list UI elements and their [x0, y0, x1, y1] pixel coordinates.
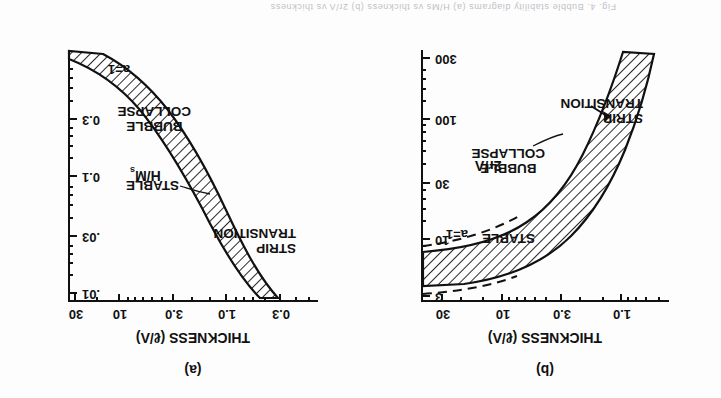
- panel-a-xtick-label-3: 10: [113, 307, 127, 322]
- panel-a-label-stable: STABLE: [126, 178, 179, 193]
- panel-a-x-axis-title: THICKNESS (ℓ/Λ): [136, 330, 250, 346]
- panel-b-xtick-label-3: 30: [436, 307, 450, 322]
- panel-b-label-stable: STABLE: [482, 231, 535, 246]
- panel-b-xtick-label-1: 3.0: [553, 307, 571, 322]
- panel-a-xtick-label-2: 3.0: [165, 307, 183, 322]
- panel-b-stability-band: [421, 50, 669, 302]
- panel-a-stability-band: [68, 50, 318, 302]
- panel-b-bubble-collapse-leader: [533, 134, 563, 146]
- scanned-figure-page: Fig. 4. Bubble stability diagrams (a) H/…: [0, 0, 721, 398]
- panel-b-xtick-label-2: 10: [496, 307, 510, 322]
- panel-b-x-axis-title: THICKNESS (ℓ/Λ): [488, 330, 602, 346]
- panel-b-xtick-label-0: 1.0: [613, 307, 631, 322]
- panel-b-label-a-equals-1: a=1: [446, 227, 468, 242]
- panel-a-label-bubble-collapse: BUBBLECOLLAPSE: [117, 104, 191, 134]
- panel-a: (a) THICKNESS (ℓ/Λ) H/Ms 0.3 1.0 3.0 10 …: [0, 0, 360, 398]
- panel-b: (b) THICKNESS (ℓ/Λ) 2r/Λ 1.0 3.0 10 30: [360, 0, 721, 398]
- panel-b-plot-area: (b) THICKNESS (ℓ/Λ) 2r/Λ 1.0 3.0 10 30: [421, 50, 669, 302]
- panel-a-label-a-equals-1: a=1: [108, 62, 130, 77]
- panel-a-xtick-label-1: 1.0: [218, 307, 236, 322]
- panel-a-label-strip-transition: STRIPTRANSITION: [214, 226, 297, 256]
- panel-b-label-strip-transition: STRIPTRANSITION: [561, 96, 644, 126]
- panel-b-label-bubble-collapse: BUBBLECOLLAPSE: [471, 146, 545, 176]
- panel-a-xtick-label-4: 30: [69, 307, 83, 322]
- panel-a-plot-area: (a) THICKNESS (ℓ/Λ) H/Ms 0.3 1.0 3.0 10 …: [68, 50, 318, 302]
- panel-b-letter: (b): [536, 362, 554, 378]
- panel-a-xtick-label-0: 0.3: [272, 307, 290, 322]
- panel-a-letter: (a): [184, 362, 201, 378]
